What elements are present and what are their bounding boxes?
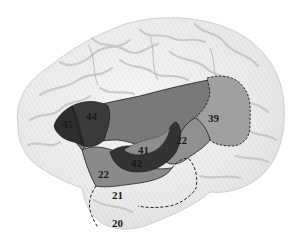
label-area-39: 39 xyxy=(208,112,220,124)
label-area-20: 20 xyxy=(112,217,124,229)
label-area-41: 41 xyxy=(138,144,149,156)
brain-svg: 45 44 41 42 22 39 22 21 20 xyxy=(0,0,296,240)
label-area-42: 42 xyxy=(131,157,143,169)
label-area-44: 44 xyxy=(86,110,98,122)
label-area-21: 21 xyxy=(112,189,123,201)
label-area-22-anterior: 22 xyxy=(98,168,110,180)
brain-diagram: 45 44 41 42 22 39 22 21 20 xyxy=(0,0,296,240)
label-area-22-posterior: 22 xyxy=(176,134,188,146)
label-area-45: 45 xyxy=(62,118,74,130)
